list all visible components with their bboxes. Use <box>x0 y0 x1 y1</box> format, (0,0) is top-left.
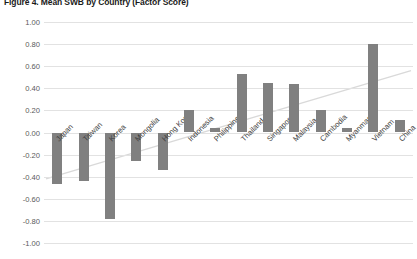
y-axis-tick-label: 1.00 <box>6 18 40 27</box>
y-axis-tick-label: 0.20 <box>6 106 40 115</box>
y-axis-tick-label: -1.00 <box>6 239 40 248</box>
bar[interactable] <box>289 84 299 133</box>
gridline <box>44 155 413 156</box>
y-axis-tick-label: -0.80 <box>6 216 40 225</box>
gridline <box>44 88 413 89</box>
gridline <box>44 243 413 244</box>
y-axis-tick-label: 0.00 <box>6 128 40 137</box>
y-axis-tick-label: -0.40 <box>6 172 40 181</box>
gridline <box>44 66 413 67</box>
x-axis-category-label: Taiwan <box>81 120 104 143</box>
y-axis-tick-label: 0.40 <box>6 84 40 93</box>
y-axis-tick-label: 0.80 <box>6 40 40 49</box>
bar[interactable] <box>237 74 247 133</box>
bar[interactable] <box>368 44 378 132</box>
gridline <box>44 177 413 178</box>
bar[interactable] <box>105 133 115 219</box>
y-axis-tick-label: 0.60 <box>6 62 40 71</box>
y-axis-tick-label: -0.20 <box>6 150 40 159</box>
gridline <box>44 22 413 23</box>
y-axis-tick-label: -0.60 <box>6 194 40 203</box>
bar[interactable] <box>263 83 273 133</box>
gridline <box>44 199 413 200</box>
gridline <box>44 44 413 45</box>
gridline <box>44 221 413 222</box>
gridline <box>44 110 413 111</box>
